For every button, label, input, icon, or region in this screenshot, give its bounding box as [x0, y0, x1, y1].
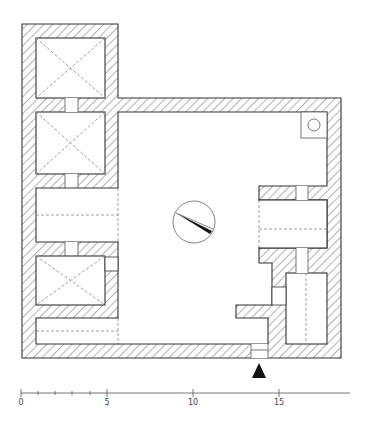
- scale-label-10: 10: [188, 398, 198, 407]
- scale-bar: 0 5 10 15: [18, 389, 350, 407]
- scale-label-5: 5: [104, 398, 109, 407]
- east-passage: [259, 200, 327, 248]
- floor-plan: 0 5 10 15: [0, 0, 366, 432]
- room-se: [286, 273, 327, 344]
- scale-label-0: 0: [18, 398, 23, 407]
- entrance-marker-icon: [252, 363, 266, 378]
- entrance-doorway: [251, 344, 268, 358]
- doorway-nw: [65, 98, 78, 112]
- well-square: [301, 112, 327, 138]
- scale-label-15: 15: [274, 398, 284, 407]
